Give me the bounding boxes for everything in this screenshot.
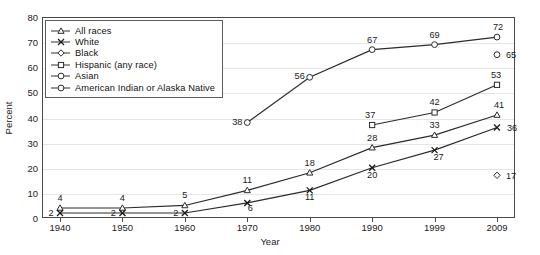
y-tick-label: 70 (12, 37, 38, 48)
y-tick-label: 50 (12, 87, 38, 98)
x-tick-label: 1980 (299, 222, 320, 233)
y-tick-label: 80 (12, 12, 38, 23)
circle-marker-icon (51, 82, 70, 93)
legend-item-label: Black (75, 48, 98, 58)
legend-item-hispanic-any-race[interactable]: Hispanic (any race) (51, 59, 215, 70)
legend-item-black[interactable]: Black (51, 48, 215, 59)
x-tick-label: 1960 (174, 222, 195, 233)
x-marker-icon (51, 37, 70, 48)
data-point-marker (58, 62, 63, 67)
diamond-marker-icon (51, 48, 70, 59)
x-tick-label: 2009 (486, 222, 507, 233)
legend-item-white[interactable]: White (51, 36, 215, 47)
y-tick-label: 40 (12, 112, 38, 123)
gridline (43, 144, 514, 145)
square-marker-icon (51, 59, 70, 70)
x-tick-label: 1940 (49, 222, 70, 233)
legend-item-label: Hispanic (any race) (75, 60, 157, 70)
data-point-marker (57, 50, 63, 56)
x-tick-label: 1970 (237, 222, 258, 233)
chart-root: Percent 80706050403020100 19401950196019… (0, 0, 540, 255)
x-tick-label: 1999 (424, 222, 445, 233)
circle-marker-icon (51, 71, 70, 82)
legend-glyph (55, 82, 66, 93)
y-tick-label: 0 (12, 213, 38, 224)
legend-item-label: White (75, 37, 99, 47)
gridline (43, 194, 514, 195)
legend-item-american-indian-or-alaska-native[interactable]: American Indian or Alaska Native (51, 82, 215, 93)
y-tick-label: 20 (12, 162, 38, 173)
legend-glyph (55, 37, 66, 48)
legend-glyph (55, 71, 66, 82)
x-tick-label: 1950 (112, 222, 133, 233)
y-tick-label: 30 (12, 137, 38, 148)
triangle-marker-icon (51, 25, 70, 36)
data-point-marker (58, 39, 64, 45)
data-point-marker (57, 28, 63, 33)
legend-glyph (55, 59, 66, 70)
gridline (43, 169, 514, 170)
legend-item-asian[interactable]: Asian (51, 71, 215, 82)
gridline (43, 119, 514, 120)
data-point-marker (58, 85, 64, 91)
legend-glyph (55, 48, 66, 59)
x-tick-label: 1990 (362, 222, 383, 233)
data-point-marker (58, 73, 64, 79)
legend: All racesWhiteBlackHispanic (any race)As… (45, 20, 223, 98)
legend-item-label: All races (75, 26, 112, 36)
legend-item-label: Asian (75, 71, 99, 81)
legend-glyph (55, 25, 66, 36)
x-axis-label: Year (0, 236, 540, 247)
legend-item-label: American Indian or Alaska Native (75, 83, 215, 93)
legend-item-all-races[interactable]: All races (51, 25, 215, 36)
y-tick-label: 60 (12, 62, 38, 73)
y-tick-label: 10 (12, 187, 38, 198)
